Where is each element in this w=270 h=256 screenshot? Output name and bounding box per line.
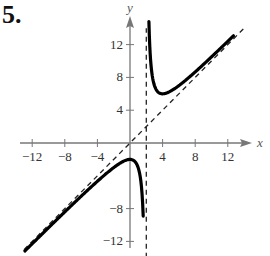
graph: xy−12−8−448121284−8−12 [0, 0, 270, 256]
x-tick-label: 8 [192, 149, 199, 164]
x-tick-label: −12 [22, 149, 42, 164]
y-tick-label: 8 [117, 69, 124, 84]
y-tick-label: 12 [110, 37, 123, 52]
x-tick-label: −8 [58, 149, 72, 164]
y-tick-label: −8 [109, 201, 123, 216]
x-axis-label: x [256, 135, 263, 150]
slant-asymptote [24, 28, 244, 249]
x-tick-label: 12 [221, 149, 234, 164]
y-axis-label: y [125, 0, 133, 15]
y-tick-label: 4 [117, 102, 124, 117]
right-branch [149, 21, 234, 93]
x-tick-label: −4 [90, 149, 104, 164]
x-tick-label: 4 [159, 149, 166, 164]
left-branch [25, 159, 143, 251]
y-tick-label: −12 [103, 233, 123, 248]
